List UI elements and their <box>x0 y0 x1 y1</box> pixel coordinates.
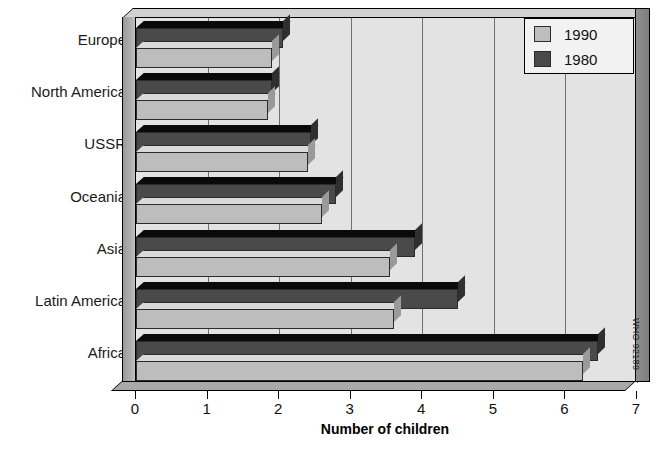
bar-end-cap <box>583 347 590 374</box>
bar-top-face <box>136 145 316 152</box>
bar-top-face <box>136 177 344 184</box>
bar-end-cap <box>272 34 279 61</box>
bar-top-face <box>136 302 401 309</box>
legend-label-1990: 1990 <box>564 26 597 43</box>
bar-top-face <box>136 230 423 237</box>
plot-floor-panel <box>111 381 636 391</box>
x-axis-line <box>118 391 652 392</box>
bar-front-face <box>136 48 272 68</box>
x-tick-1 <box>207 391 208 399</box>
x-axis-title: Number of children <box>118 421 652 437</box>
bar-top-face <box>136 282 466 289</box>
x-tick-label-0: 0 <box>120 400 150 417</box>
x-tick-2 <box>278 391 279 399</box>
y-axis-label-asia: Asia <box>4 241 126 256</box>
bar-end-cap <box>322 191 329 218</box>
bar-top-face <box>136 334 605 341</box>
legend: 1990 1980 <box>524 18 634 74</box>
bar-front-face <box>136 309 394 329</box>
bar-end-cap <box>458 275 465 302</box>
x-tick-0 <box>135 391 136 399</box>
y-axis-label-ussr: USSR <box>4 136 126 151</box>
x-tick-4 <box>421 391 422 399</box>
x-axis: 01234567 <box>118 391 652 421</box>
x-tick-label-4: 4 <box>406 400 436 417</box>
bar-oceania-1990 <box>136 204 322 224</box>
bar-end-cap <box>308 139 315 166</box>
gridline-5 <box>494 18 495 383</box>
bar-top-face <box>136 73 280 80</box>
who-credit-text: WHO 92189 <box>631 318 641 370</box>
x-tick-label-6: 6 <box>549 400 579 417</box>
bar-top-face <box>136 354 591 361</box>
bar-end-cap <box>336 171 343 198</box>
bar-top-face <box>136 93 276 100</box>
bar-africa-1990 <box>136 361 583 381</box>
bar-top-face <box>136 21 290 28</box>
x-tick-label-5: 5 <box>478 400 508 417</box>
bar-front-face <box>136 257 390 277</box>
bar-end-cap <box>283 14 290 41</box>
bar-top-face <box>136 41 280 48</box>
gridline-4 <box>422 18 423 383</box>
x-tick-3 <box>350 391 351 399</box>
bar-end-cap <box>598 327 605 354</box>
y-axis-label-latin-america: Latin America <box>4 293 126 308</box>
bar-front-face <box>136 361 583 381</box>
bar-front-face <box>136 204 322 224</box>
legend-label-1980: 1980 <box>564 51 597 68</box>
legend-item-1990[interactable]: 1990 <box>534 25 597 43</box>
x-tick-label-7: 7 <box>621 400 651 417</box>
x-tick-6 <box>564 391 565 399</box>
bar-latin-america-1990 <box>136 309 394 329</box>
y-axis-label-north-america: North America <box>4 84 126 99</box>
legend-swatch-1980 <box>534 51 551 67</box>
bar-north-america-1990 <box>136 100 268 120</box>
bar-front-face <box>136 152 308 172</box>
y-axis-label-oceania: Oceania <box>4 189 126 204</box>
bar-top-face <box>136 125 319 132</box>
plot-left-wall <box>122 17 136 382</box>
bar-front-face <box>136 100 268 120</box>
legend-item-1980[interactable]: 1980 <box>534 50 597 68</box>
bar-top-face <box>136 250 398 257</box>
y-axis-label-africa: Africa <box>4 345 126 360</box>
bar-end-cap <box>268 86 275 113</box>
x-tick-5 <box>493 391 494 399</box>
y-axis-category-labels: EuropeNorth AmericaUSSROceaniaAsiaLatin … <box>0 14 126 376</box>
x-tick-7 <box>636 391 637 399</box>
bar-end-cap <box>415 223 422 250</box>
x-tick-label-2: 2 <box>263 400 293 417</box>
bar-chart: EuropeNorth AmericaUSSROceaniaAsiaLatin … <box>0 0 664 451</box>
y-axis-label-europe: Europe <box>4 32 126 47</box>
bar-ussr-1990 <box>136 152 308 172</box>
x-tick-label-1: 1 <box>192 400 222 417</box>
bar-asia-1990 <box>136 257 390 277</box>
bar-top-face <box>136 197 330 204</box>
legend-swatch-1990 <box>534 26 551 42</box>
x-tick-label-3: 3 <box>335 400 365 417</box>
bar-europe-1990 <box>136 48 272 68</box>
